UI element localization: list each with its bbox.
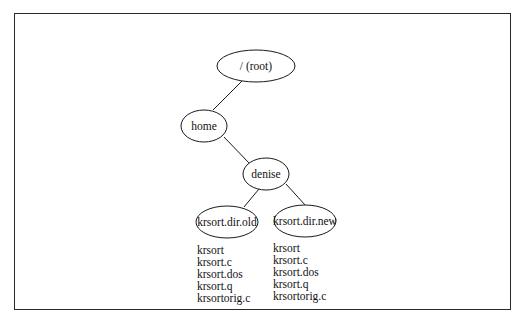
file-list-krsort-dir-old: krsort krsort.c krsort.dos krsort.q krso… xyxy=(197,244,250,304)
edge-root-home xyxy=(213,81,242,110)
node-root: / (root) xyxy=(217,50,295,82)
node-krsort-dir-old-label: krsort.dir.old xyxy=(197,216,257,228)
file-item: krsort.dos xyxy=(273,266,326,278)
file-list-krsort-dir-new: krsort krsort.c krsort.dos krsort.q krso… xyxy=(273,242,326,302)
file-item: krsort.q xyxy=(197,280,250,292)
edge-denise-old xyxy=(244,189,259,207)
edge-denise-new xyxy=(286,184,306,206)
file-item: krsort.dos xyxy=(197,268,250,280)
node-root-label: / (root) xyxy=(240,60,272,73)
directory-tree-diagram: / (root) home denise krsort.dir.old krso… xyxy=(0,0,529,322)
node-home: home xyxy=(181,110,227,142)
node-denise-label: denise xyxy=(251,168,280,180)
file-item: krsortorig.c xyxy=(273,290,326,302)
node-home-label: home xyxy=(191,120,217,132)
node-krsort-dir-new-label: krsort.dir.new xyxy=(273,215,338,227)
file-item: krsort.q xyxy=(273,278,326,290)
file-item: krsort.c xyxy=(273,254,326,266)
node-krsort-dir-new: krsort.dir.new xyxy=(273,205,338,237)
file-item: krsortorig.c xyxy=(197,292,250,304)
file-item: krsort.c xyxy=(197,256,250,268)
file-item: krsort xyxy=(273,242,326,254)
node-krsort-dir-old: krsort.dir.old xyxy=(196,206,258,238)
file-item: krsort xyxy=(197,244,250,256)
node-denise: denise xyxy=(243,158,289,190)
edge-home-denise xyxy=(224,137,250,164)
